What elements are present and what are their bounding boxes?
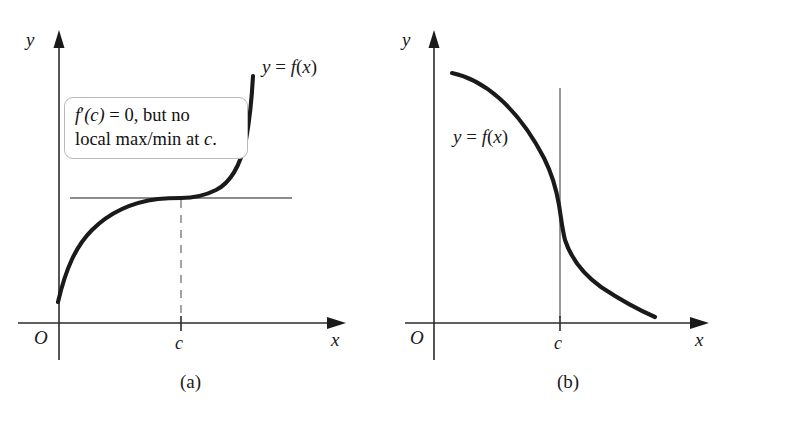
callout-a-end: . (212, 129, 217, 149)
callout-a-rest2: local max/min at (75, 129, 204, 149)
origin-label-b: O (410, 328, 424, 347)
curve-label-a-close: ) (311, 56, 317, 77)
curve-label-b: y = f(x) (453, 127, 508, 146)
curve-label-a-x: x (302, 56, 310, 77)
panel-a: y x O c y = f(x) f′(c) = 0, but no local… (0, 0, 405, 422)
caption-b: (b) (557, 372, 579, 391)
caption-a: (a) (180, 372, 201, 391)
callout-a-line1: f′(c) = 0, but no (75, 104, 238, 128)
curve-label-b-eq: = (461, 126, 481, 147)
curve-label-b-x: x (493, 126, 501, 147)
figure-container: y x O c y = f(x) f′(c) = 0, but no local… (0, 0, 809, 422)
y-axis-a (54, 30, 65, 360)
panel-b: y x O c y = f(x) f′(c) does not exist, b… (405, 0, 809, 422)
curve-label-a-eq: = (270, 56, 290, 77)
callout-a-var: c (204, 129, 212, 149)
curve-label-a: y = f(x) (262, 57, 317, 76)
panel-b-graphics (405, 0, 809, 422)
curve-b (452, 73, 655, 317)
x-axis-label-a: x (331, 330, 339, 349)
y-axis-label-a: y (26, 30, 34, 49)
callout-a-rest1: = 0, but no (105, 105, 190, 125)
callout-a: f′(c) = 0, but no local max/min at c. (64, 97, 248, 159)
x-axis-b (405, 317, 709, 329)
panel-a-graphics (0, 0, 405, 422)
callout-a-line2: local max/min at c. (75, 128, 238, 152)
callout-a-arg: (c) (84, 105, 105, 125)
y-axis-label-b: y (402, 30, 410, 49)
tick-label-c-a: c (175, 334, 183, 352)
tick-label-c-b: c (554, 334, 562, 352)
y-axis-b (429, 30, 440, 360)
curve-label-b-close: ) (502, 126, 508, 147)
x-axis-a (18, 317, 346, 329)
origin-label-a: O (34, 328, 48, 347)
x-axis-label-b: x (695, 330, 703, 349)
